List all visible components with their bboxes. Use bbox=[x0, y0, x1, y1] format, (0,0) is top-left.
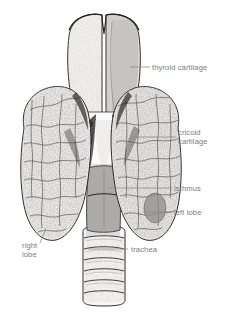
label-trachea: trachea bbox=[131, 245, 157, 254]
label-right-lobe-line1: right bbox=[22, 241, 37, 250]
label-isthmus: isthmus bbox=[174, 184, 201, 193]
label-thyroid-cartilage: thyroid cartilage bbox=[152, 63, 207, 72]
label-cricoid-cartilage-line2: cartilage bbox=[178, 137, 208, 146]
label-left-lobe: left lobe bbox=[174, 208, 202, 217]
label-cricoid-cartilage-line1: cricoid bbox=[178, 128, 201, 137]
anatomical-figure: thyroid cartilage cricoid cartilage isth… bbox=[0, 0, 237, 312]
thyroid-gland-illustration bbox=[0, 0, 237, 312]
label-right-lobe-line2: lobe bbox=[22, 250, 37, 259]
trachea-group bbox=[80, 226, 128, 306]
